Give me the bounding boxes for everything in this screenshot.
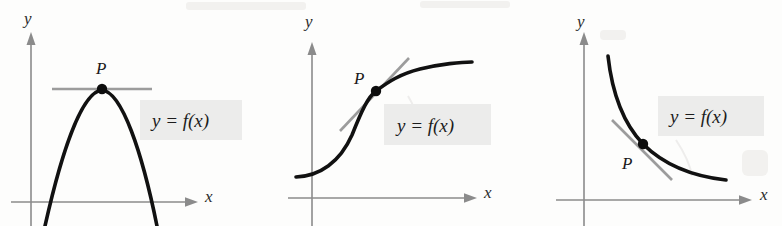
x-axis	[11, 197, 198, 206]
y-axis-label: y	[303, 12, 313, 31]
point-p-dot	[97, 84, 107, 94]
function-label: y = f(x)	[150, 110, 209, 132]
point-p-dot	[638, 139, 648, 149]
figure-container: y x P y = f(x) y x	[0, 0, 782, 226]
x-axis	[288, 193, 477, 202]
y-axis	[27, 32, 36, 226]
x-axis-label: x	[483, 183, 492, 202]
panel-sigmoid: y x P y = f(x)	[288, 12, 492, 226]
panel-parabola: y x P y = f(x)	[11, 9, 242, 226]
panel-hyperbola: y x P y = f(x)	[556, 12, 768, 226]
function-label: y = f(x)	[668, 106, 727, 128]
x-axis	[556, 195, 752, 204]
point-p-dot	[371, 86, 381, 96]
x-axis-label: x	[759, 185, 768, 204]
point-p-label: P	[621, 154, 632, 173]
function-label: y = f(x)	[395, 115, 454, 137]
point-p-label: P	[353, 69, 364, 88]
point-p-label: P	[95, 59, 106, 78]
y-axis-label: y	[22, 9, 32, 28]
tangent-lines-figure: y x P y = f(x) y x	[0, 0, 782, 226]
y-axis	[580, 32, 589, 226]
y-axis-label: y	[575, 12, 585, 31]
scan-artifacts	[186, 1, 768, 176]
x-axis-label: x	[204, 187, 213, 206]
